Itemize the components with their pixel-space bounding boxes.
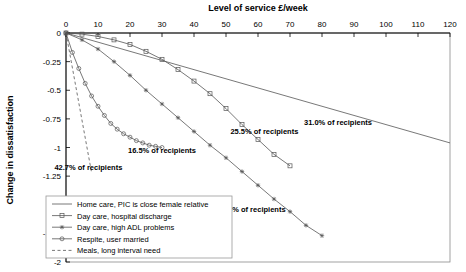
y-tick-label: -1 — [54, 144, 62, 153]
legend-label: Home care, PIC is close female relative — [77, 200, 208, 209]
annotation-label: 16.5% of recipients — [128, 146, 196, 155]
y-axis-title: Change in dissatisfaction — [5, 95, 15, 204]
x-axis-title: Level of service £/week — [208, 3, 309, 13]
x-tick-label: 80 — [318, 20, 327, 29]
y-tick-label: -0.25 — [43, 58, 62, 67]
x-tick-label: 100 — [379, 20, 393, 29]
x-tick-label: 120 — [443, 20, 457, 29]
x-tick-label: 40 — [190, 20, 199, 29]
data-point-marker-star — [192, 129, 196, 133]
data-point-marker-star — [256, 183, 260, 187]
data-point-marker-star — [320, 233, 324, 237]
data-point-marker-star — [160, 102, 164, 106]
y-tick-label: -2 — [54, 258, 62, 267]
data-point-marker-star — [224, 156, 228, 160]
chart-legend: Home care, PIC is close female relativeD… — [46, 196, 232, 258]
data-point-marker-star — [272, 197, 276, 201]
series-4 — [66, 33, 92, 173]
annotation-label: 25.5% of recipients — [230, 127, 298, 136]
data-point-marker-star — [176, 116, 180, 120]
series-line — [66, 33, 92, 173]
data-point-marker-star — [128, 73, 132, 77]
y-tick-label: 0 — [57, 29, 62, 38]
legend-label: Day care, high ADL problems — [77, 223, 175, 232]
data-point-marker-star — [240, 169, 244, 173]
annotation-label: 31.0% of recipients — [304, 118, 372, 127]
y-tick-label: -0.5 — [47, 86, 61, 95]
line-chart: 0102030405060708090100110120 0-0.25-0.5-… — [0, 0, 466, 272]
data-point-marker-star — [96, 47, 100, 51]
x-tick-label: 20 — [126, 20, 135, 29]
x-tick-label: 60 — [254, 20, 263, 29]
y-tick-label: -0.75 — [43, 115, 62, 124]
legend-label: Respite, user married — [77, 235, 149, 244]
x-tick-label: 90 — [350, 20, 359, 29]
x-tick-label: 10 — [94, 20, 103, 29]
data-point-marker-star — [60, 225, 64, 229]
chart-container: 0102030405060708090100110120 0-0.25-0.5-… — [0, 0, 466, 272]
series-3 — [64, 31, 164, 150]
data-point-marker-star — [144, 88, 148, 92]
data-point-marker-star — [80, 38, 84, 42]
x-tick-label: 50 — [222, 20, 231, 29]
legend-label: Meals, long interval need — [77, 246, 160, 255]
data-point-marker-star — [288, 209, 292, 213]
x-axis-ticks: 0102030405060708090100110120 — [64, 20, 457, 37]
data-point-marker-star — [304, 223, 308, 227]
x-tick-label: 30 — [158, 20, 167, 29]
y-tick-label: -1.25 — [43, 172, 62, 181]
x-tick-label: 110 — [412, 20, 425, 29]
x-tick-label: 70 — [286, 20, 295, 29]
data-point-marker-star — [112, 59, 116, 63]
data-point-marker-star — [208, 143, 212, 147]
x-tick-label: 0 — [64, 20, 69, 29]
legend-label: Day care, hospital discharge — [77, 212, 172, 221]
annotation-label: 42.7% of recipients — [54, 163, 122, 172]
